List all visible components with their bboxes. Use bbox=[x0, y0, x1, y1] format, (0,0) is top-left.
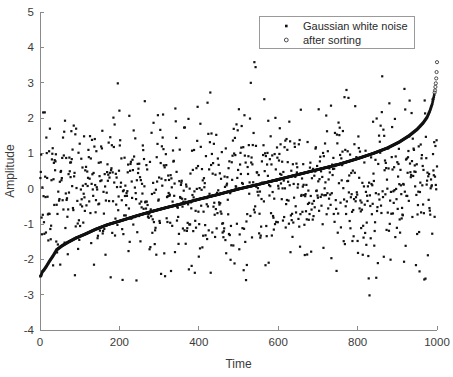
noise-point bbox=[360, 227, 362, 229]
noise-point bbox=[320, 170, 322, 172]
noise-point bbox=[415, 194, 417, 196]
noise-point bbox=[326, 213, 328, 215]
noise-point bbox=[126, 190, 128, 192]
x-tick-label: 0 bbox=[37, 336, 43, 348]
y-tick-label: 1 bbox=[28, 147, 34, 159]
noise-point bbox=[159, 129, 161, 131]
noise-point bbox=[435, 188, 437, 190]
noise-point bbox=[251, 163, 253, 165]
noise-point bbox=[83, 193, 85, 195]
noise-point bbox=[206, 102, 208, 104]
noise-point bbox=[399, 218, 401, 220]
noise-point bbox=[214, 236, 216, 238]
noise-point bbox=[311, 177, 313, 179]
noise-point bbox=[74, 133, 76, 135]
noise-point bbox=[410, 176, 412, 178]
noise-point bbox=[184, 198, 186, 200]
noise-point bbox=[105, 199, 107, 201]
noise-point bbox=[57, 243, 59, 245]
noise-point bbox=[330, 105, 332, 107]
noise-point bbox=[85, 204, 87, 206]
noise-point bbox=[65, 192, 67, 194]
noise-point bbox=[237, 169, 239, 171]
noise-point bbox=[372, 203, 374, 205]
noise-point bbox=[236, 223, 238, 225]
noise-point bbox=[201, 246, 203, 248]
noise-point bbox=[188, 268, 190, 270]
noise-point bbox=[92, 195, 94, 197]
noise-point bbox=[413, 149, 415, 151]
noise-point bbox=[82, 185, 84, 187]
noise-point bbox=[186, 227, 188, 229]
noise-point bbox=[416, 233, 418, 235]
noise-point bbox=[316, 189, 318, 191]
noise-point bbox=[143, 208, 145, 210]
noise-point bbox=[410, 112, 412, 114]
noise-point bbox=[384, 169, 386, 171]
noise-point bbox=[216, 227, 218, 229]
noise-point bbox=[243, 228, 245, 230]
noise-point bbox=[68, 191, 70, 193]
noise-point bbox=[42, 214, 44, 216]
noise-point bbox=[79, 225, 81, 227]
noise-point bbox=[39, 177, 41, 179]
noise-point bbox=[180, 184, 182, 186]
noise-point bbox=[77, 152, 79, 154]
noise-point bbox=[229, 234, 231, 236]
noise-point bbox=[418, 231, 420, 233]
noise-point bbox=[72, 207, 74, 209]
noise-point bbox=[238, 248, 240, 250]
noise-point bbox=[320, 205, 322, 207]
noise-point bbox=[364, 150, 366, 152]
noise-point bbox=[70, 161, 72, 163]
noise-point bbox=[254, 205, 256, 207]
noise-point bbox=[295, 205, 297, 207]
noise-point bbox=[285, 138, 287, 140]
noise-point bbox=[87, 149, 89, 151]
noise-point bbox=[195, 227, 197, 229]
noise-point bbox=[406, 195, 408, 197]
noise-point bbox=[366, 200, 368, 202]
noise-point bbox=[166, 217, 168, 219]
noise-point bbox=[407, 150, 409, 152]
noise-point bbox=[177, 243, 179, 245]
noise-point bbox=[389, 200, 391, 202]
noise-point bbox=[142, 149, 144, 151]
noise-point bbox=[278, 159, 280, 161]
noise-point bbox=[158, 176, 160, 178]
noise-point bbox=[112, 171, 114, 173]
noise-point bbox=[49, 228, 51, 230]
noise-point bbox=[315, 146, 317, 148]
noise-point bbox=[389, 223, 391, 225]
plot-canvas: 543210-1-2-3-402004006008001000TimeAmpli… bbox=[0, 0, 453, 377]
chart-legend: Gaussian white noiseafter sorting bbox=[259, 16, 414, 48]
noise-point bbox=[403, 184, 405, 186]
noise-point bbox=[264, 170, 266, 172]
noise-point bbox=[210, 272, 212, 274]
noise-point bbox=[62, 199, 64, 201]
noise-point bbox=[83, 135, 85, 137]
noise-point bbox=[382, 129, 384, 131]
noise-point bbox=[285, 226, 287, 228]
noise-point bbox=[143, 158, 145, 160]
noise-point bbox=[374, 230, 376, 232]
noise-point bbox=[94, 138, 96, 140]
noise-point bbox=[230, 244, 232, 246]
noise-point bbox=[306, 218, 308, 220]
noise-point bbox=[121, 199, 123, 201]
noise-point bbox=[233, 262, 235, 264]
noise-point bbox=[372, 121, 374, 123]
noise-point bbox=[310, 251, 312, 253]
noise-point bbox=[340, 226, 342, 228]
noise-point bbox=[161, 185, 163, 187]
noise-point bbox=[185, 243, 187, 245]
x-tick-label: 400 bbox=[189, 336, 208, 348]
noise-point bbox=[307, 189, 309, 191]
noise-point bbox=[112, 117, 114, 119]
noise-point bbox=[222, 222, 224, 224]
noise-point bbox=[183, 229, 185, 231]
noise-point bbox=[395, 188, 397, 190]
noise-point bbox=[337, 122, 339, 124]
noise-point bbox=[419, 182, 421, 184]
noise-point bbox=[430, 178, 432, 180]
